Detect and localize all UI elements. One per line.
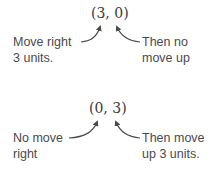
arrows-layer	[0, 0, 215, 172]
arrow-right-to-y	[117, 27, 140, 42]
arrow-right-to-y	[116, 122, 140, 138]
arrow-left-to-x	[81, 27, 100, 42]
arrow-left-to-x	[69, 122, 97, 138]
